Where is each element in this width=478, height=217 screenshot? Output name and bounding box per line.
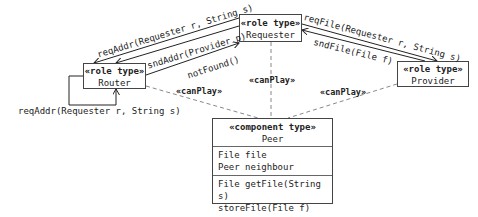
self-loop-label: reqAddr(Requester r, String s) (18, 106, 181, 116)
operation: File getFile(String s) (218, 178, 327, 202)
peer-component-box[interactable]: «component type» Peer File file Peer nei… (212, 118, 333, 204)
provider-stereotype: «role type» (398, 63, 468, 75)
requester-name: Requester (240, 29, 301, 41)
router-role-box[interactable]: «role type» Router (83, 63, 146, 89)
peer-operations: File getFile(String s) storeFile(File f) (213, 175, 332, 216)
canplay-requester-label: «canPlay» (249, 75, 295, 85)
attribute: File file (218, 149, 327, 161)
canplay-router-label: «canPlay» (176, 86, 222, 96)
peer-name: Peer (213, 133, 332, 145)
provider-name: Provider (398, 75, 468, 87)
operation: storeFile(File f) (218, 202, 327, 214)
provider-role-box[interactable]: «role type» Provider (397, 61, 469, 87)
peer-header: «component type» Peer (213, 119, 332, 146)
peer-attributes: File file Peer neighbour (213, 146, 332, 175)
requester-role-box[interactable]: «role type» Requester (239, 14, 302, 42)
peer-stereotype: «component type» (213, 121, 332, 133)
router-stereotype: «role type» (84, 65, 145, 77)
router-name: Router (84, 77, 145, 89)
requester-stereotype: «role type» (240, 17, 301, 29)
canplay-provider-label: «canPlay» (320, 87, 366, 97)
attribute: Peer neighbour (218, 161, 327, 173)
